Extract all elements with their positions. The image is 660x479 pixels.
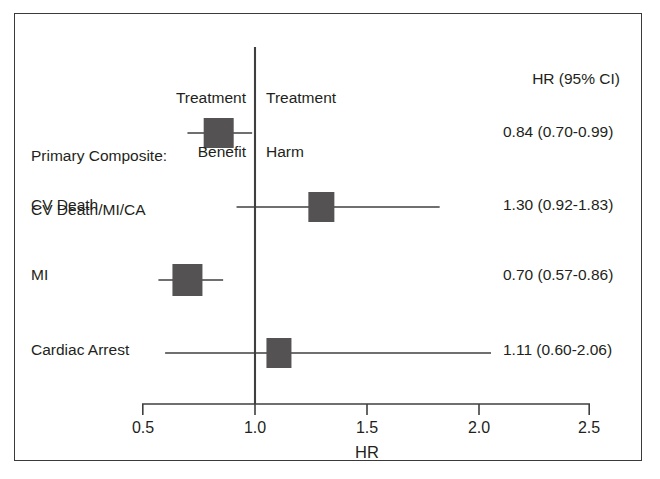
xtick-label-4: 2.5 [578, 419, 600, 438]
row-label-cv-death: CV Death [31, 196, 231, 214]
row-value-primary-composite: 0.84 (0.70-0.99) [503, 123, 613, 141]
row-label-mi: MI [31, 266, 231, 284]
xtick-label-1: 1.0 [244, 419, 266, 438]
row-value-mi: 0.70 (0.57-0.86) [503, 266, 613, 284]
xtick-label-0: 0.5 [132, 419, 154, 438]
x-axis [142, 404, 590, 415]
point-estimate-marker [266, 338, 291, 368]
xtick-label-3: 2.0 [468, 419, 490, 438]
value-column-header: HR (95% CI) [385, 70, 620, 88]
header-treatment-harm-line1: Treatment [266, 89, 416, 107]
row-value-cardiac-arrest: 1.11 (0.60-2.06) [503, 341, 612, 359]
row-value-cv-death: 1.30 (0.92-1.83) [503, 196, 613, 214]
header-treatment-harm-line2: Harm [266, 143, 416, 161]
header-treatment-benefit-line1: Treatment [118, 89, 246, 107]
row-label-cardiac-arrest: Cardiac Arrest [31, 341, 231, 359]
row-label-primary-composite: Primary Composite: CV Death/MI/CA [31, 110, 231, 238]
row-label-line1: Primary Composite: [31, 147, 231, 165]
point-estimate-marker [308, 192, 334, 222]
xtick-label-2: 1.5 [356, 419, 378, 438]
x-axis-title: HR [355, 443, 379, 462]
